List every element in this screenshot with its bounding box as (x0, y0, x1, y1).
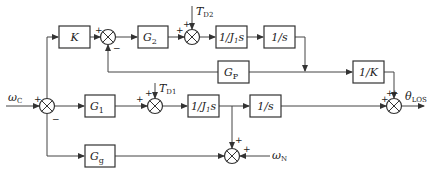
svg-text:1/s: 1/s (271, 31, 288, 44)
sign: + (136, 94, 144, 104)
sum-junction-3 (148, 99, 163, 114)
line-to-K (47, 37, 58, 99)
input-label: ωC (8, 91, 22, 105)
sign: + (145, 88, 153, 98)
block-G1: G1 (85, 95, 115, 117)
noise-label: ωN (272, 149, 287, 163)
svg-text:1/K: 1/K (359, 66, 379, 79)
svg-text:K: K (69, 31, 79, 44)
sum-junction-noise (225, 149, 240, 164)
disturbance-TD2-label: TD2 (196, 5, 213, 19)
sign: − (113, 43, 121, 53)
sign: + (243, 144, 251, 154)
line-integ-down (295, 37, 305, 71)
sign: + (391, 88, 399, 98)
sign: + (34, 94, 42, 104)
block-inverse-K: 1/K (353, 61, 384, 83)
block-diagram: K G2 1/J1s 1/s GP 1/K G1 1/J1s 1/s Gg (0, 0, 433, 176)
sum-junction-output (387, 99, 402, 114)
line-Gp-feedback (108, 45, 218, 72)
svg-text:1/J1s: 1/J1s (219, 31, 245, 45)
svg-text:1/s: 1/s (257, 100, 274, 113)
block-G2: G2 (138, 26, 168, 48)
disturbance-TD1-label: TD1 (159, 82, 176, 96)
sum-junction-2 (185, 30, 200, 45)
block-1-over-J1s-bottom: 1/J1s (188, 95, 219, 117)
block-integrator-bottom: 1/s (250, 95, 281, 117)
sign: − (52, 114, 60, 124)
sign: + (183, 19, 191, 29)
output-label: θLOS (405, 90, 427, 104)
block-Gg: Gg (85, 145, 115, 167)
sign: + (95, 25, 103, 35)
sign: + (235, 135, 243, 145)
sum-junction-main (40, 99, 55, 114)
block-K: K (59, 26, 90, 48)
block-Gp: GP (218, 61, 249, 83)
block-integrator-top: 1/s (264, 26, 295, 48)
svg-text:1/J1s: 1/J1s (191, 100, 217, 114)
block-1-over-J1s-top: 1/J1s (216, 26, 247, 48)
